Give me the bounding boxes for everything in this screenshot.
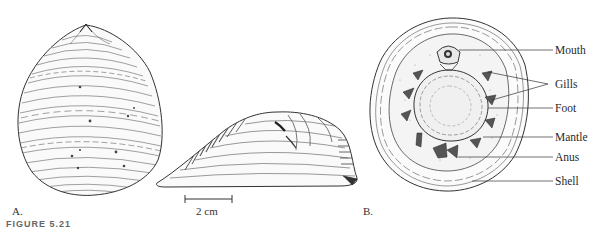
foot [414,70,488,141]
panel-label-a: A. [12,205,23,217]
label-mantle: Mantle [555,131,588,143]
label-gills: Gills [555,78,577,90]
figure-caption: FIGURE 5.21 [6,219,71,227]
label-mouth: Mouth [555,44,586,56]
label-foot: Foot [555,102,576,114]
label-anus: Anus [555,151,579,163]
ventral-anatomy-view [370,18,528,191]
scale-bar [185,195,232,203]
shell-dorsal-view [18,24,162,195]
label-shell: Shell [555,175,579,187]
scale-bar-label: 2 cm [196,205,218,217]
mollusk-figure: Mouth Gills Foot Mantle Anus Shell A. B.… [0,0,597,227]
shell-lateral-view [156,112,357,187]
panel-label-b: B. [363,205,373,217]
illustration-canvas [0,0,597,227]
